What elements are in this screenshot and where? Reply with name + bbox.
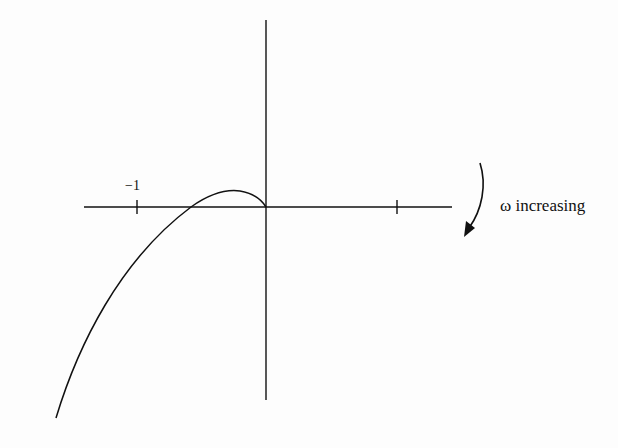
curved-arrow-down-icon: [469, 163, 483, 228]
tick-label-minus-one: −1: [125, 178, 140, 194]
omega-increasing-label: ω increasing: [500, 196, 585, 216]
arrow-head: [464, 221, 475, 237]
nyquist-diagram: −1 ω increasing: [0, 0, 618, 448]
diagram-svg: [0, 0, 618, 448]
nyquist-curve: [56, 191, 266, 418]
